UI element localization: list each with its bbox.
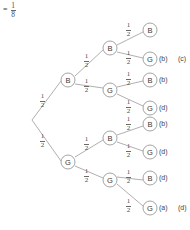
prob-root-to-b: 12 [40, 93, 45, 109]
prob-g-to-gg: 12 [84, 168, 89, 184]
prob-gg-to-leaf7: 12 [126, 169, 131, 185]
edge-root-to-g [32, 120, 61, 161]
prob-bg-to-leaf3: 12 [126, 71, 131, 87]
node-label: G [147, 104, 153, 113]
fraction-numerator: 1 [126, 143, 131, 150]
node-label: G [65, 158, 71, 167]
fraction-denominator: 2 [40, 102, 45, 109]
fraction-denominator: 2 [84, 145, 89, 152]
fraction-numerator: 1 [40, 93, 45, 100]
tree-node-leaf-1: B [143, 23, 157, 37]
fraction-numerator: 1 [126, 99, 131, 106]
fraction-numerator: 1 [84, 78, 89, 85]
fraction-denominator: 2 [84, 87, 89, 94]
prob-g-to-gb: 12 [84, 136, 89, 152]
tree-node-leaf-4: G [143, 101, 157, 115]
prob-gg-to-leaf8: 12 [126, 198, 131, 214]
node-label: G [107, 86, 113, 95]
leaf-annotation-leaf-2-2: (c) [178, 55, 186, 62]
prob-bb-to-leaf2: 12 [126, 50, 131, 66]
leaf-annotation-leaf-7-1: (d) [159, 174, 168, 181]
prob-bb-to-leaf1: 12 [126, 22, 131, 38]
leaf-annotation-leaf-4-1: (d) [159, 104, 168, 111]
prob-gb-to-leaf5: 12 [126, 116, 131, 132]
leaf-annotation-leaf-6-1: (d) [159, 148, 168, 155]
fraction-denominator: 2 [126, 108, 131, 115]
tree-node-n-gb: B [103, 131, 117, 145]
tree-node-n-b: B [61, 73, 75, 87]
node-label: G [147, 204, 153, 213]
edge-root-to-b [32, 81, 61, 120]
edge-g-to-gb [75, 140, 103, 157]
node-label: B [65, 76, 70, 85]
fraction-numerator: 1 [126, 71, 131, 78]
prob-root-to-g: 12 [40, 133, 45, 149]
fraction-numerator: 1 [40, 133, 45, 140]
edge-b-to-bb [75, 50, 103, 76]
tree-node-leaf-3: B [143, 73, 157, 87]
node-label: B [107, 44, 112, 53]
tree-node-n-bb: B [103, 41, 117, 55]
leaf-annotation-leaf-5-1: (b) [159, 120, 168, 127]
tree-node-leaf-6: G [143, 145, 157, 159]
tree-node-n-gg: G [103, 173, 117, 187]
tree-graphics: BGBGBGBGBGBGBG [0, 0, 190, 230]
fraction-numerator: 1 [84, 136, 89, 143]
fraction-denominator: 2 [126, 125, 131, 132]
edge-g-to-gg [75, 166, 103, 178]
prob-b-to-bg: 12 [84, 78, 89, 94]
tree-node-leaf-8: G [143, 201, 157, 215]
fraction-numerator: 1 [126, 50, 131, 57]
node-label: G [147, 55, 153, 64]
fraction-denominator: 2 [84, 62, 89, 69]
fraction-numerator: 1 [126, 22, 131, 29]
node-label: G [107, 176, 113, 185]
node-label: G [147, 148, 153, 157]
node-label: B [147, 120, 152, 129]
prob-bg-to-leaf4: 12 [126, 99, 131, 115]
tree-nodes: BGBGBGBGBGBGBG [61, 23, 157, 215]
tree-node-n-bg: G [103, 83, 117, 97]
fraction-denominator: 2 [126, 178, 131, 185]
tree-node-leaf-7: B [143, 171, 157, 185]
fraction-denominator: 2 [126, 59, 131, 66]
node-label: B [147, 174, 152, 183]
fraction-denominator: 2 [40, 142, 45, 149]
node-label: B [147, 26, 152, 35]
probability-tree-figure: = 1 8 [0, 0, 190, 230]
node-label: B [147, 76, 152, 85]
leaf-annotation-leaf-8-2: (d) [178, 204, 187, 211]
prob-gb-to-leaf6: 12 [126, 143, 131, 159]
leaf-annotation-leaf-2-1: (b) [159, 55, 168, 62]
fraction-denominator: 2 [84, 177, 89, 184]
fraction-denominator: 2 [126, 31, 131, 38]
fraction-denominator: 2 [126, 152, 131, 159]
fraction-numerator: 1 [84, 53, 89, 60]
tree-node-leaf-2: G [143, 52, 157, 66]
fraction-denominator: 2 [126, 207, 131, 214]
leaf-annotation-leaf-8-1: (a) [159, 204, 168, 211]
fraction-denominator: 2 [126, 80, 131, 87]
node-label: B [107, 134, 112, 143]
fraction-numerator: 1 [126, 169, 131, 176]
fraction-numerator: 1 [126, 198, 131, 205]
tree-node-n-g: G [61, 155, 75, 169]
fraction-numerator: 1 [84, 168, 89, 175]
edge-b-to-bg [75, 84, 103, 88]
tree-node-leaf-5: B [143, 117, 157, 131]
leaf-annotation-leaf-3-1: (b) [159, 76, 168, 83]
fraction-numerator: 1 [126, 116, 131, 123]
prob-b-to-bb: 12 [84, 53, 89, 69]
